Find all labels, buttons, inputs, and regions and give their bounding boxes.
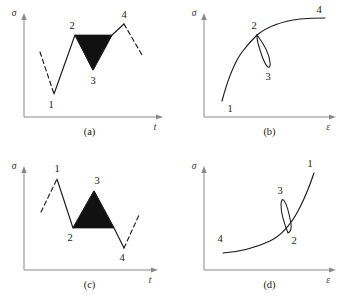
axes-lines xyxy=(204,18,330,117)
post-history-dashed xyxy=(124,24,142,55)
tension-triangle-fill xyxy=(73,191,114,228)
x-axis-arrow-icon xyxy=(156,114,163,119)
pre-history-dashed xyxy=(41,179,57,212)
point-label-3: 3 xyxy=(277,185,282,196)
unload-reload-loop xyxy=(281,200,291,233)
x-axis-arrow-icon xyxy=(329,267,336,272)
point-label-2: 2 xyxy=(251,20,256,31)
panel-b-caption: (b) xyxy=(180,126,359,137)
point-label-3: 3 xyxy=(265,71,270,82)
y-axis-arrow-icon xyxy=(201,13,206,20)
figure-container: 1 2 3 4 σ t (a) 1 2 3 4 σ ε xyxy=(0,0,359,306)
point-label-4: 4 xyxy=(119,252,125,263)
panel-d-caption: (d) xyxy=(180,279,359,290)
panel-a: 1 2 3 4 σ t (a) xyxy=(0,0,179,153)
axes-lines xyxy=(24,18,158,117)
post-history-dashed xyxy=(124,215,139,248)
panel-b: 1 2 3 4 σ ε (b) xyxy=(180,0,359,153)
y-axis-arrow-icon xyxy=(201,166,206,173)
point-label-1: 1 xyxy=(227,103,232,114)
y-axis-arrow-icon xyxy=(21,13,26,20)
stress-strain-curve xyxy=(223,173,314,253)
panel-a-caption: (a) xyxy=(0,126,179,137)
panel-c: 1 2 3 4 σ t (c) xyxy=(0,153,179,306)
point-label-4: 4 xyxy=(121,9,127,20)
unload-reload-loop xyxy=(257,35,270,67)
point-label-1: 1 xyxy=(54,163,59,174)
point-label-2: 2 xyxy=(291,235,296,246)
point-label-4: 4 xyxy=(217,233,223,244)
y-axis-label: σ xyxy=(192,161,197,171)
point-label-4: 4 xyxy=(316,4,322,15)
point-label-3: 3 xyxy=(90,75,95,86)
y-axis-label: σ xyxy=(192,8,197,18)
pre-history-dashed xyxy=(40,52,54,94)
x-axis-arrow-icon xyxy=(151,267,158,272)
point-label-1: 1 xyxy=(48,99,53,110)
panel-c-caption: (c) xyxy=(0,279,179,290)
point-label-2: 2 xyxy=(67,232,72,243)
y-axis-arrow-icon xyxy=(21,166,26,173)
compression-triangle-fill xyxy=(75,35,112,70)
point-label-3: 3 xyxy=(94,175,99,186)
x-axis-arrow-icon xyxy=(329,114,336,119)
panel-d: 1 2 3 4 σ ε (d) xyxy=(180,153,359,306)
stress-strain-curve xyxy=(222,18,325,101)
point-label-2: 2 xyxy=(69,20,74,31)
axes-lines xyxy=(204,171,330,270)
y-axis-label: σ xyxy=(12,161,17,171)
y-axis-label: σ xyxy=(12,8,17,18)
point-label-1: 1 xyxy=(307,158,312,169)
